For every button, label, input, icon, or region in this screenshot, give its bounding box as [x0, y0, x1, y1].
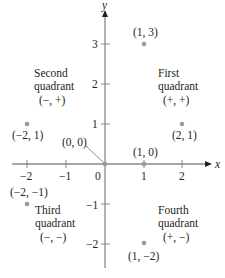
svg-text:quadrant: quadrant [158, 217, 199, 230]
svg-text:(−, +): (−, +) [39, 94, 66, 107]
y-tick-label: −1 [86, 199, 98, 211]
point-dot [142, 162, 147, 167]
coordinate-plane-diagram: x y −2 −1 0 1 2 3 2 1 −1 −2 (1, 3) (−2, … [0, 0, 225, 278]
y-axis-label: y [101, 0, 108, 12]
point-dot [25, 202, 30, 207]
svg-text:quadrant: quadrant [34, 80, 75, 93]
quadrant-label-first: First quadrant (+, +) [158, 67, 199, 107]
point-label: (1, 0) [133, 146, 158, 159]
point-label: (1, 3) [133, 26, 158, 39]
point-dot [180, 122, 185, 127]
point-label: (−2, −1) [10, 186, 48, 199]
quadrant-label-third: Third quadrant (−, −) [35, 204, 76, 244]
point-label: (2, 1) [172, 129, 197, 142]
svg-text:quadrant: quadrant [158, 80, 199, 93]
coordinate-plane-svg: x y −2 −1 0 1 2 3 2 1 −1 −2 (1, 3) (−2, … [0, 0, 225, 278]
origin-leader-line [86, 146, 104, 163]
x-tick-label: 1 [141, 170, 147, 182]
y-tick-label: 1 [92, 118, 98, 130]
y-tick-label: 3 [92, 38, 98, 50]
svg-text:Third: Third [35, 204, 61, 216]
svg-text:quadrant: quadrant [35, 217, 76, 230]
point-label: (1, −2) [128, 250, 160, 263]
y-axis-arrow-icon [102, 10, 108, 17]
point-dot [142, 42, 147, 47]
quadrant-label-fourth: Fourth quadrant (+, −) [158, 204, 199, 244]
svg-text:Second: Second [34, 67, 68, 79]
quadrant-label-second: Second quadrant (−, +) [34, 67, 75, 107]
point-label: (0, 0) [62, 136, 87, 149]
y-axis [102, 10, 108, 268]
point-label: (−2, 1) [12, 129, 44, 142]
x-axis-arrow-icon [205, 161, 212, 167]
point-dot [25, 122, 30, 127]
svg-text:(−, −): (−, −) [40, 231, 67, 244]
svg-text:Fourth: Fourth [158, 204, 189, 216]
x-tick-label: 2 [179, 170, 185, 182]
x-axis-label: x [214, 158, 221, 170]
svg-text:First: First [158, 67, 180, 79]
x-tick-label: −1 [59, 170, 71, 182]
svg-text:(+, +): (+, +) [163, 94, 190, 107]
svg-text:(+, −): (+, −) [163, 231, 190, 244]
y-tick-label: −2 [86, 238, 98, 250]
x-tick-label: −2 [20, 170, 32, 182]
y-tick-label: 2 [92, 78, 98, 90]
point-dot [142, 241, 147, 246]
x-tick-label: 0 [95, 170, 101, 182]
